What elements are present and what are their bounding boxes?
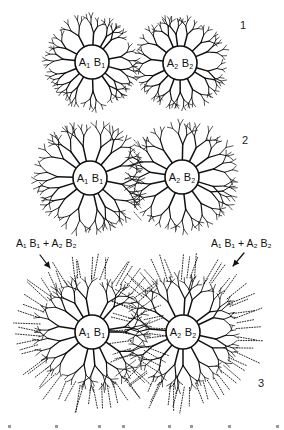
soma-label-a2b2: A2 B2 [169,171,196,184]
dendrite-diagram [0,0,284,430]
cropped-caption-fragments [0,425,284,430]
annotation-arrows [40,253,244,268]
arrow-head-icon [44,261,50,268]
soma-label-a2b2: A2 B2 [170,326,197,339]
soma-label-a1b1: A1 B1 [77,172,104,185]
soma-label-a1b1: A1 B1 [79,326,106,339]
sum-annotation-left: A₁ B₁ + A₂ B₂ [16,237,76,249]
stage-label-1: 1 [240,19,246,31]
soma-label-a2b2: A2 B2 [167,57,194,70]
stage-label-2: 2 [242,134,248,146]
stage-label-3: 3 [258,377,264,389]
sum-annotation-right: A₁ B₁ + A₂ B₂ [211,237,271,249]
soma-label-a1b1: A1 B1 [79,56,106,69]
dotted-extensions [14,140,263,413]
dendrite-trees [32,13,240,394]
